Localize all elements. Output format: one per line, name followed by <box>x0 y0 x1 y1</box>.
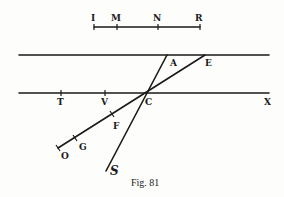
label-G: G <box>79 142 87 152</box>
scale-segment: I M N R <box>91 13 203 30</box>
line-ACS <box>106 55 167 171</box>
label-O: O <box>61 151 69 161</box>
label-S: S <box>110 164 119 178</box>
geometry-diagram: I M N R A E T V C X F G O S Fig. 81 <box>0 0 284 197</box>
label-M: M <box>111 13 121 23</box>
label-I: I <box>91 13 95 23</box>
label-E: E <box>205 58 212 68</box>
label-C: C <box>145 97 152 107</box>
label-T: T <box>57 97 64 107</box>
label-R: R <box>195 13 203 23</box>
label-V: V <box>100 97 109 107</box>
line-ECO <box>58 55 205 148</box>
label-X: X <box>264 97 271 107</box>
label-N: N <box>153 13 161 23</box>
label-A: A <box>169 58 178 68</box>
figure-81: I M N R A E T V C X F G O S Fig. 81 <box>0 0 284 197</box>
label-F: F <box>113 121 120 131</box>
figure-caption: Fig. 81 <box>131 177 159 188</box>
